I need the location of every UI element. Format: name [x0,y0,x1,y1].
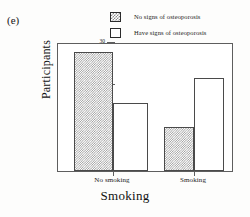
white-square-icon [110,28,121,38]
legend-item-label: No signs of osteoporosis [134,13,201,20]
x-axis-category-smoking: Smoking [180,176,206,184]
figure-panel: (e) No signs of osteoporosis Have signs … [0,0,250,217]
x-axis-category-no-smoking: No smoking [94,176,129,184]
legend: No signs of osteoporosis Have signs of o… [110,11,206,38]
bar-smoking-have-signs [194,78,224,171]
plot-inner: 0 10 20 30 [58,44,232,171]
bar-no-smoking-have-signs [113,103,148,171]
bar-no-smoking-no-signs [74,52,113,171]
bar-smoking-no-signs [164,127,194,171]
legend-item-no-signs: No signs of osteoporosis [110,11,206,22]
plot-area: 0 10 20 30 [57,43,233,172]
legend-item-have-signs: Have signs of osteoporosis [110,27,206,38]
y-axis-tick-label: 30 [100,38,106,44]
hatched-square-icon [110,12,121,22]
panel-label: (e) [7,14,19,26]
x-axis-title: Smoking [0,188,250,204]
y-axis-tick: 30 [107,42,115,43]
legend-item-label: Have signs of osteoporosis [134,29,206,36]
y-axis-title: Participants [39,15,54,125]
